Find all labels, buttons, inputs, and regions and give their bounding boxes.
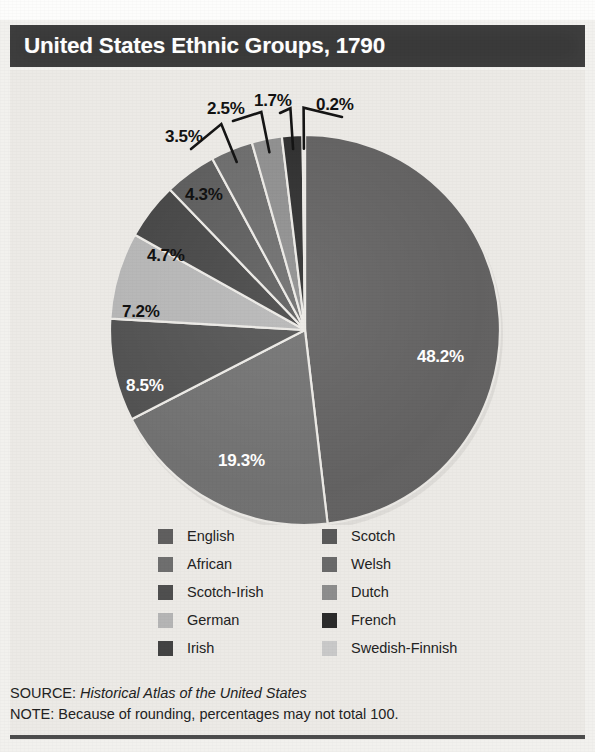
- page-title: United States Ethnic Groups, 1790: [10, 33, 385, 59]
- slice-percentage-label: 19.3%: [218, 451, 265, 471]
- legend-item[interactable]: African: [158, 550, 264, 578]
- pie-chart-svg: [10, 70, 585, 525]
- slice-percentage-label: 2.5%: [207, 99, 245, 119]
- legend-swatch: [158, 557, 173, 572]
- legend-label: Welsh: [351, 556, 391, 572]
- legend-label: Swedish-Finnish: [351, 640, 457, 656]
- legend-item[interactable]: English: [158, 522, 264, 550]
- legend-label: Irish: [187, 640, 214, 656]
- slice-percentage-label: 3.5%: [165, 127, 203, 147]
- slice-percentage-label: 0.2%: [316, 95, 354, 115]
- chart-panel: 48.2%19.3%8.5%7.2%4.7%4.3%3.5%2.5%1.7%0.…: [10, 70, 585, 740]
- legend-item[interactable]: French: [322, 606, 457, 634]
- note-line: NOTE: Because of rounding, percentages m…: [10, 704, 585, 725]
- legend-swatch: [322, 529, 337, 544]
- figure-root: United States Ethnic Groups, 1790: [0, 0, 595, 752]
- source-prefix: SOURCE:: [10, 685, 76, 701]
- pie-slice-group: [110, 135, 500, 525]
- legend-swatch: [158, 529, 173, 544]
- legend-label: German: [187, 612, 239, 628]
- source-title: Historical Atlas of the United States: [80, 685, 307, 701]
- page-margin-top: [0, 0, 595, 20]
- legend-item[interactable]: Scotch-Irish: [158, 578, 264, 606]
- chart-footer: SOURCE: Historical Atlas of the United S…: [10, 683, 585, 725]
- legend-item[interactable]: Welsh: [322, 550, 457, 578]
- legend-swatch: [322, 613, 337, 628]
- slice-percentage-label: 4.3%: [185, 185, 223, 205]
- legend-column-left: EnglishAfricanScotch-IrishGermanIrish: [158, 522, 264, 662]
- legend-label: African: [187, 556, 232, 572]
- legend-item[interactable]: Scotch: [322, 522, 457, 550]
- legend-item[interactable]: Dutch: [322, 578, 457, 606]
- slice-percentage-label: 7.2%: [122, 302, 160, 322]
- chart-legend: EnglishAfricanScotch-IrishGermanIrish Sc…: [10, 522, 585, 664]
- slice-percentage-label: 4.7%: [147, 246, 185, 266]
- legend-swatch: [322, 641, 337, 656]
- legend-swatch: [158, 613, 173, 628]
- slice-percentage-label: 1.7%: [254, 91, 292, 111]
- slice-percentage-label: 8.5%: [126, 376, 164, 396]
- legend-item[interactable]: Irish: [158, 634, 264, 662]
- legend-swatch: [322, 557, 337, 572]
- legend-label: English: [187, 528, 235, 544]
- legend-label: Scotch-Irish: [187, 584, 264, 600]
- legend-label: French: [351, 612, 396, 628]
- footer-rule: [10, 735, 585, 739]
- source-line: SOURCE: Historical Atlas of the United S…: [10, 683, 585, 704]
- slice-percentage-label: 48.2%: [417, 347, 464, 367]
- legend-swatch: [158, 641, 173, 656]
- legend-item[interactable]: German: [158, 606, 264, 634]
- pie-chart-plot: 48.2%19.3%8.5%7.2%4.7%4.3%3.5%2.5%1.7%0.…: [10, 70, 585, 525]
- chart-title-bar: United States Ethnic Groups, 1790: [10, 25, 585, 67]
- legend-swatch: [158, 585, 173, 600]
- legend-column-right: ScotchWelshDutchFrenchSwedish-Finnish: [322, 522, 457, 662]
- legend-swatch: [322, 585, 337, 600]
- legend-item[interactable]: Swedish-Finnish: [322, 634, 457, 662]
- legend-label: Dutch: [351, 584, 389, 600]
- legend-label: Scotch: [351, 528, 395, 544]
- pie-slice[interactable]: [305, 135, 500, 524]
